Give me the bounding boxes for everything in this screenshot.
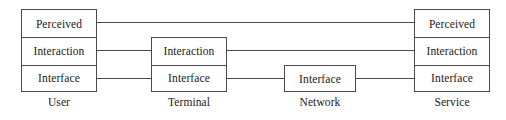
link-terminal-interaction-to-service-interaction: [227, 50, 414, 51]
node-network-label: Network: [284, 96, 356, 108]
node-user-layer-interaction[interactable]: Interaction: [22, 37, 96, 64]
node-user-label: User: [21, 96, 97, 108]
diagram-canvas: Perceived Interaction Interface User Int…: [0, 0, 506, 120]
node-network-layer-interface[interactable]: Interface: [285, 66, 355, 91]
link-user-perceived-to-service-perceived: [97, 22, 414, 23]
link-user-interface-to-terminal-interface: [97, 78, 151, 79]
node-service-layer-interaction[interactable]: Interaction: [415, 37, 489, 64]
node-service-layer-perceived[interactable]: Perceived: [415, 10, 489, 37]
link-network-interface-to-service-interface: [356, 78, 414, 79]
node-terminal-layer-interface[interactable]: Interface: [152, 65, 226, 91]
node-user-layer-perceived[interactable]: Perceived: [22, 10, 96, 37]
node-service-label: Service: [414, 96, 490, 108]
node-terminal[interactable]: Interaction Interface: [151, 37, 227, 92]
node-terminal-label: Terminal: [151, 96, 227, 108]
node-network[interactable]: Interface: [284, 65, 356, 92]
link-terminal-interface-to-network-interface: [227, 78, 284, 79]
node-service[interactable]: Perceived Interaction Interface: [414, 9, 490, 92]
node-user[interactable]: Perceived Interaction Interface: [21, 9, 97, 92]
node-terminal-layer-interaction[interactable]: Interaction: [152, 38, 226, 65]
link-user-interaction-to-terminal-interaction: [97, 50, 151, 51]
node-user-layer-interface[interactable]: Interface: [22, 65, 96, 91]
node-service-layer-interface[interactable]: Interface: [415, 65, 489, 91]
